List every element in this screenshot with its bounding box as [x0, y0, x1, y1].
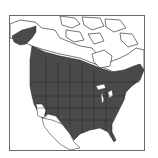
range-map: [0, 0, 158, 158]
